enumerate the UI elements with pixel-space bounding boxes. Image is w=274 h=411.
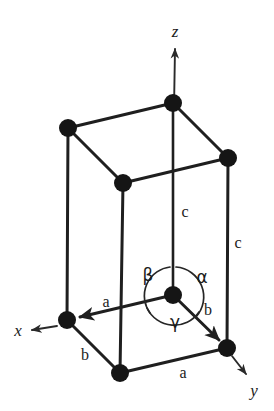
angle-label-beta: β	[143, 267, 154, 284]
origin-axis-edges	[80, 295, 219, 340]
edge-vertical-left	[67, 128, 68, 320]
edge-top-front-to-top-right	[123, 158, 228, 183]
angle-label-gamma: γ	[170, 314, 180, 331]
node-top-right	[219, 149, 237, 167]
edge-label-b-right: b	[204, 302, 212, 318]
edge-label-c-right: c	[234, 235, 241, 251]
edge-bottom-front-to-bottom-right	[120, 348, 227, 373]
cell-edges	[67, 103, 228, 373]
unit-cell-drawing	[0, 0, 274, 411]
node-bottom-right	[218, 339, 236, 357]
unit-cell-figure: z x y a b b a c c α β γ	[0, 0, 274, 411]
node-origin-bottom-back	[164, 286, 182, 304]
edge-top-left-to-top-front	[68, 128, 123, 183]
edge-top-left-to-top-back	[68, 103, 173, 128]
node-top-left	[59, 119, 77, 137]
node-bottom-left	[58, 311, 76, 329]
edge-vertical-front	[120, 183, 123, 373]
axis-y-line	[232, 356, 246, 374]
axis-x-line	[32, 326, 57, 330]
axis-label-z: z	[172, 23, 179, 40]
edge-label-b-bottom-left: b	[81, 347, 89, 363]
node-bottom-front	[111, 364, 129, 382]
edge-bottom-left-to-bottom-front	[67, 320, 120, 373]
node-top-front	[114, 174, 132, 192]
node-top-back	[164, 94, 182, 112]
edge-label-a-bottom-front: a	[179, 365, 186, 381]
angle-label-alpha: α	[196, 269, 207, 286]
axis-label-y: y	[250, 382, 258, 399]
axis-label-x: x	[14, 322, 22, 339]
edge-top-back-to-top-right	[173, 103, 228, 158]
edge-vertical-right	[227, 158, 228, 348]
edge-origin-to-bottom-left	[80, 295, 173, 317]
edge-label-a-top-left: a	[102, 294, 109, 310]
edge-label-c-inner: c	[181, 204, 188, 220]
